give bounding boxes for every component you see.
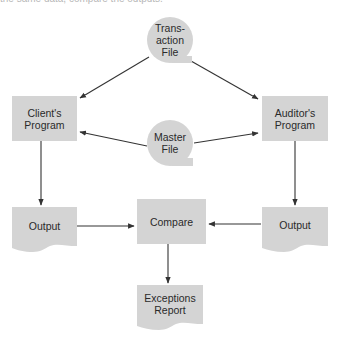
arrow-master-to-auditor bbox=[194, 133, 258, 143]
connectors bbox=[41, 57, 295, 283]
arrow-transaction-to-auditor bbox=[191, 61, 258, 99]
auditors-program-label: Auditor's Program bbox=[262, 96, 328, 141]
output-right-label: Output bbox=[262, 207, 328, 242]
exceptions-report-label: Exceptions Report bbox=[137, 285, 203, 323]
clients-program-label: Client's Program bbox=[12, 96, 77, 141]
transaction-file-label: Trans- action File bbox=[147, 18, 193, 62]
arrow-master-to-client bbox=[80, 132, 147, 146]
arrow-transaction-to-client bbox=[80, 57, 149, 98]
output-left-label: Output bbox=[12, 207, 77, 244]
master-file-label: Master File bbox=[147, 121, 193, 165]
compare-label: Compare bbox=[137, 199, 206, 244]
